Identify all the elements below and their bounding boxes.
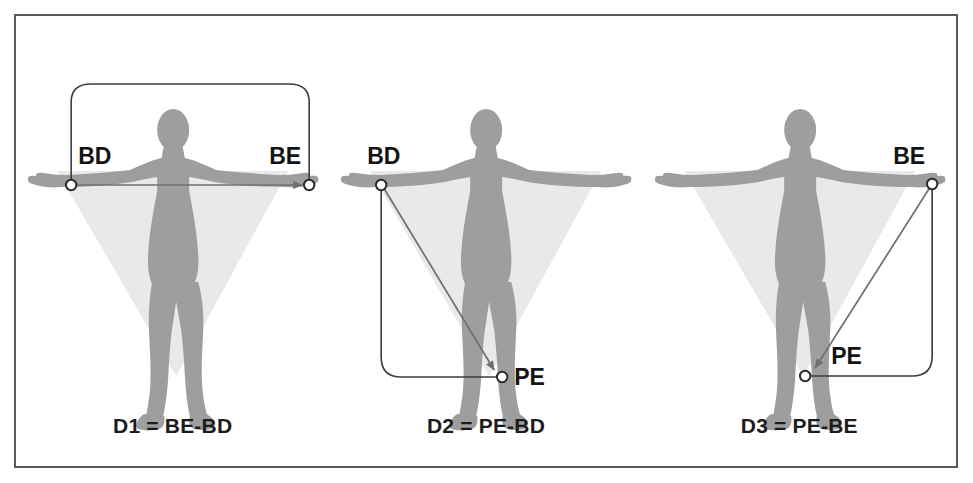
panel-container: BD BE D1 = BE-BD	[16, 16, 956, 466]
panel-d3: BE PE D3 = PE-BE	[643, 16, 956, 466]
marker-be[interactable]	[304, 180, 314, 190]
marker-bd[interactable]	[376, 180, 386, 190]
panel-d2-figure: BD PE	[329, 16, 642, 466]
panel-d1: BD BE D1 = BE-BD	[16, 16, 329, 466]
label-pe: PE	[514, 364, 545, 390]
label-bd: BD	[367, 143, 400, 169]
marker-pe[interactable]	[800, 371, 810, 381]
marker-pe[interactable]	[497, 372, 507, 382]
marker-be[interactable]	[927, 179, 937, 189]
panel-d2: BD PE D2 = PE-BD	[329, 16, 642, 466]
label-be: BE	[269, 143, 301, 169]
panel-d2-caption: D2 = PE-BD	[329, 414, 642, 438]
label-be: BE	[893, 143, 925, 169]
panel-d3-caption: D3 = PE-BE	[643, 414, 956, 438]
figure-root: BD BE D1 = BE-BD	[0, 0, 973, 483]
label-bd: BD	[78, 143, 111, 169]
panel-d3-figure: BE PE	[643, 16, 956, 466]
panel-d1-caption: D1 = BE-BD	[16, 414, 329, 438]
label-pe: PE	[831, 343, 862, 369]
marker-bd[interactable]	[66, 180, 76, 190]
panel-d1-figure: BD BE	[16, 16, 329, 466]
